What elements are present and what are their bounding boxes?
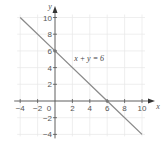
line-chart: −4−20246810−4−2246810xy x + y = 6: [0, 0, 162, 147]
y-tick-label: −2: [43, 114, 53, 123]
intercept-point: [53, 49, 56, 52]
y-tick-label: 8: [48, 30, 53, 39]
y-tick-label: 4: [48, 64, 53, 73]
x-axis-arrow-icon: [148, 99, 155, 104]
x-tick-label: 10: [138, 104, 147, 113]
x-tick-label: 8: [122, 104, 127, 113]
x-tick-label: −4: [16, 104, 26, 113]
y-tick-label: 2: [48, 80, 53, 89]
axes: [14, 6, 155, 138]
x-tick-label: 0: [47, 104, 52, 113]
annotations: x + y = 6: [73, 54, 104, 63]
series-line: [20, 18, 142, 135]
x-tick-label: 2: [70, 104, 75, 113]
data-series: [20, 18, 142, 135]
equation-label: x + y = 6: [73, 54, 104, 63]
intercept-point: [106, 99, 109, 102]
x-tick-label: 4: [88, 104, 93, 113]
x-axis-label: x: [155, 102, 160, 111]
y-axis-label: y: [47, 2, 52, 11]
y-axis-arrow-icon: [53, 6, 58, 13]
y-tick-label: −4: [43, 130, 53, 139]
x-tick-label: −2: [33, 104, 43, 113]
y-tick-label: 10: [43, 14, 52, 23]
x-tick-label: 6: [105, 104, 110, 113]
